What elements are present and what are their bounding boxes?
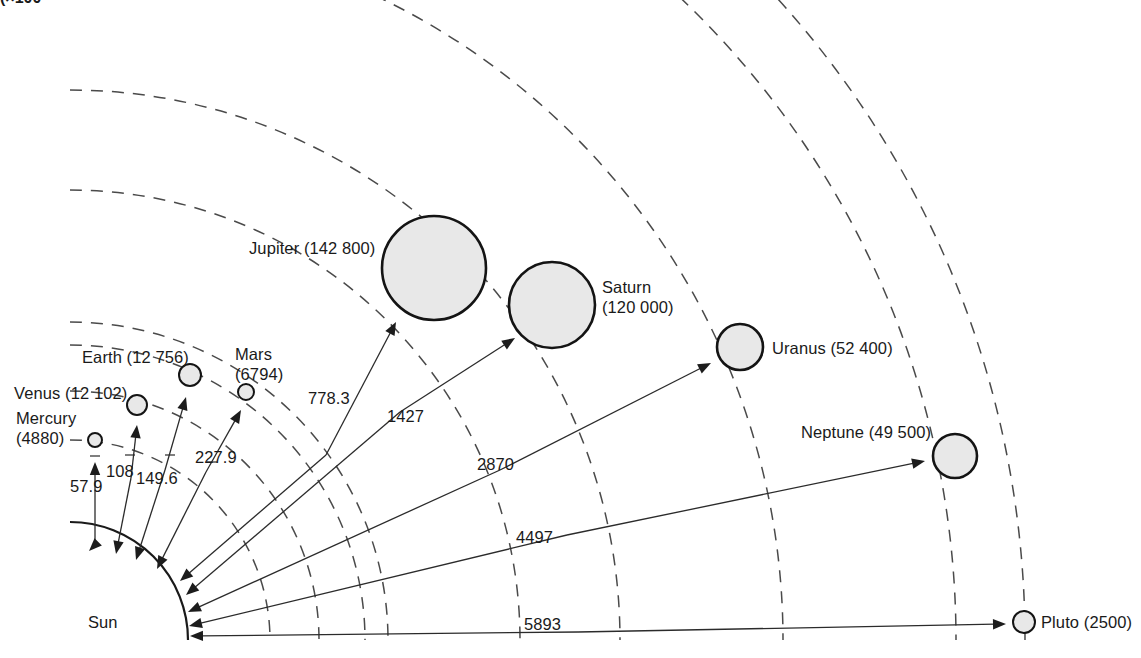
distance-arrow-venus (113, 425, 140, 554)
distance-label-mars: 227.9 (195, 448, 237, 466)
arrowhead-to-jupiter (385, 322, 396, 336)
planet-label-mercury: Mercury(4880) (16, 409, 77, 447)
arrowhead-to-earth (177, 397, 187, 411)
planet-label-neptune: Neptune (49 500) (801, 423, 931, 441)
arrowhead-to-neptune (911, 459, 925, 469)
planet-label-mars: Mars(6794) (235, 345, 283, 383)
distance-line-outer-pluto (578, 624, 995, 632)
distance-line-outer-saturn (400, 344, 506, 412)
clipped-top-left-text: (×100 (0, 0, 41, 7)
distance-line-inner-neptune (200, 535, 567, 623)
planet-body-uranus[interactable] (717, 324, 763, 370)
distance-line-inner-pluto (201, 632, 578, 636)
arrowhead-to-sun-mercury (89, 538, 102, 551)
distance-arrows-group (89, 322, 1006, 641)
planet-label-saturn: Saturn(120 000) (602, 278, 674, 316)
distance-arrow-pluto (190, 619, 1006, 641)
distance-line-outer-earth (165, 408, 183, 470)
arrowhead-to-mercury (90, 462, 100, 475)
arrowhead-to-sun-pluto (190, 631, 203, 641)
planet-body-earth[interactable] (179, 364, 201, 386)
distance-label-uranus: 2870 (477, 455, 514, 473)
arrowhead-to-sun-saturn (186, 583, 199, 595)
distance-line-inner-venus (118, 478, 131, 543)
sun-label: Sun (88, 613, 117, 631)
planet-body-venus[interactable] (127, 395, 147, 415)
orbit-arc-venus (70, 391, 319, 640)
solar-system-diagram: (×100 · Sun Mercury(4880)Venus (12 102)E… (0, 0, 1141, 658)
arrowhead-to-venus (130, 425, 140, 439)
planet-label-jupiter: Jupiter (142 800) (249, 239, 375, 257)
distance-label-pluto: 5893 (524, 615, 561, 633)
planet-label-uranus: Uranus (52 400) (772, 339, 893, 357)
arrowhead-to-sun-uranus (188, 602, 202, 612)
solar-system-canvas: Sun Mercury(4880)Venus (12 102)Earth (12… (0, 0, 1141, 658)
planet-body-mercury[interactable] (88, 433, 102, 447)
sun-group: Sun (70, 522, 188, 640)
planet-body-saturn[interactable] (509, 262, 595, 348)
distance-line-inner-jupiter (188, 455, 326, 574)
distance-arrow-mercury (89, 456, 102, 551)
orbit-arc-mars (70, 322, 388, 640)
arrowhead-to-sun-neptune (189, 618, 203, 628)
distance-label-earth: 149.6 (136, 469, 178, 487)
distance-label-mercury: 57.9 (70, 477, 103, 495)
arrowhead-to-sun-venus (113, 540, 123, 554)
arrowhead-to-pluto (993, 619, 1006, 629)
arrowhead-to-saturn (501, 338, 515, 349)
distance-line-outer-uranus (500, 368, 701, 470)
planet-label-earth: Earth (12 756) (82, 348, 189, 366)
planet-body-jupiter[interactable] (382, 216, 486, 320)
distance-arrow-mars (157, 410, 241, 569)
arrowhead-to-uranus (697, 363, 711, 374)
planet-body-mars[interactable] (238, 384, 254, 400)
planet-body-neptune[interactable] (933, 434, 977, 478)
clipped-top-right-text: · (1103, 0, 1108, 6)
distance-label-jupiter: 778.3 (308, 389, 350, 407)
planet-label-venus: Venus (12 102) (14, 384, 127, 402)
distance-line-outer-neptune (567, 463, 914, 535)
distance-arrow-neptune (189, 459, 925, 628)
distance-label-saturn: 1427 (387, 407, 424, 425)
distance-label-neptune: 4497 (516, 528, 553, 546)
distance-arrow-uranus (188, 363, 711, 612)
planet-body-pluto[interactable] (1013, 611, 1035, 633)
distance-label-venus: 108 (106, 462, 134, 480)
arrowhead-to-mars (230, 410, 241, 424)
planet-label-pluto: Pluto (2500) (1041, 613, 1132, 631)
